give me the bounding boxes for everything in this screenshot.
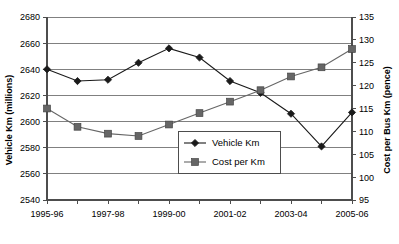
legend-label: Vehicle Km	[212, 137, 260, 148]
y-axis-left-tick-label: 2620	[20, 91, 40, 101]
y-axis-right-tick-label: 95	[359, 195, 369, 205]
y-axis-left-tick-label: 2580	[20, 143, 40, 153]
y-axis-left-tick-label: 2660	[20, 39, 40, 49]
x-axis-tick-label: 2003-04	[274, 209, 307, 219]
y-axis-right-tick-label: 115	[359, 104, 373, 114]
legend-marker-square-icon	[192, 159, 199, 166]
y-axis-right-title: Cost per Bus Km (pence)	[382, 66, 392, 174]
y-axis-right-tick-label: 105	[359, 150, 374, 160]
y-axis-left-tick-label: 2680	[20, 12, 40, 22]
data-point-cost-per-km	[257, 87, 264, 94]
y-axis-left-tick-label: 2540	[20, 195, 40, 205]
chart-legend: Vehicle KmCost per Km	[178, 131, 280, 173]
y-axis-right-tick-label: 125	[359, 58, 374, 68]
line-chart: 25402560258026002620264026602680 9510010…	[0, 0, 399, 244]
data-point-cost-per-km	[135, 133, 142, 140]
data-point-cost-per-km	[349, 46, 356, 53]
y-axis-left-title: Vehicle Km (millions)	[4, 75, 14, 166]
x-axis-tick-label: 2001-02	[213, 209, 246, 219]
data-point-cost-per-km	[166, 121, 173, 128]
data-point-cost-per-km	[74, 123, 81, 130]
x-axis-tick-label: 1997-98	[91, 209, 124, 219]
y-axis-right-tick-label: 130	[359, 35, 374, 45]
x-axis-tick-label: 1999-00	[152, 209, 185, 219]
data-point-cost-per-km	[44, 105, 51, 112]
legend-label: Cost per Km	[212, 156, 265, 167]
y-axis-right-tick-label: 100	[359, 173, 374, 183]
data-point-cost-per-km	[288, 73, 295, 80]
data-point-cost-per-km	[318, 64, 325, 71]
data-point-cost-per-km	[105, 130, 112, 137]
y-axis-right-tick-label: 110	[359, 127, 373, 137]
x-axis-tick-label: 2005-06	[335, 209, 368, 219]
y-axis-left-tick-label: 2600	[20, 117, 40, 127]
y-axis-right-tick-label: 135	[359, 12, 374, 22]
data-point-cost-per-km	[196, 110, 203, 117]
y-axis-left-tick-label: 2640	[20, 65, 40, 75]
y-axis-right-tick-label: 120	[359, 81, 374, 91]
chart-container: 25402560258026002620264026602680 9510010…	[0, 0, 399, 244]
y-axis-left-tick-label: 2560	[20, 169, 40, 179]
data-point-cost-per-km	[227, 98, 234, 105]
x-axis-tick-label: 1995-96	[30, 209, 63, 219]
